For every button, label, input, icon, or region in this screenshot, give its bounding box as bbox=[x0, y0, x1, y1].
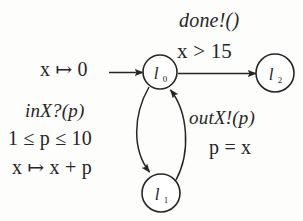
edge-label-p-equals-x: p = x bbox=[209, 137, 251, 157]
state-sublabel-l0: 0 bbox=[163, 74, 168, 84]
state-node-l2[interactable]: l 2 bbox=[256, 54, 294, 92]
state-sublabel-l2: 2 bbox=[278, 75, 283, 85]
state-circle-l1 bbox=[142, 174, 180, 212]
edge-label-out-action: outX!(p) bbox=[189, 108, 255, 127]
state-circle-l0 bbox=[143, 55, 177, 89]
state-label-l0: l bbox=[154, 64, 159, 83]
edge-label-guard-x-gt-15: x > 15 bbox=[177, 41, 232, 62]
edge-label-initial-assignment: x ↦ 0 bbox=[40, 59, 88, 79]
edge-l0-to-l1-arc bbox=[137, 87, 150, 172]
edge-label-done-action: done!() bbox=[179, 10, 239, 30]
state-node-l0[interactable]: l 0 bbox=[143, 55, 177, 89]
edge-label-p-range: 1 ≤ p ≤ 10 bbox=[8, 128, 92, 148]
state-circle-l2 bbox=[256, 54, 294, 92]
state-sublabel-l1: 1 bbox=[164, 195, 169, 205]
edge-l1-to-l0-arc bbox=[171, 90, 186, 180]
edge-label-in-action: inX?(p) bbox=[25, 101, 84, 120]
automaton-diagram: l 0 l 2 l 1 done!() x > 15 x ↦ 0 inX?(p)… bbox=[0, 0, 303, 221]
edge-label-x-update: x ↦ x + p bbox=[12, 157, 92, 177]
state-label-l1: l bbox=[155, 185, 160, 204]
state-node-l1[interactable]: l 1 bbox=[142, 174, 180, 212]
state-label-l2: l bbox=[269, 65, 274, 84]
